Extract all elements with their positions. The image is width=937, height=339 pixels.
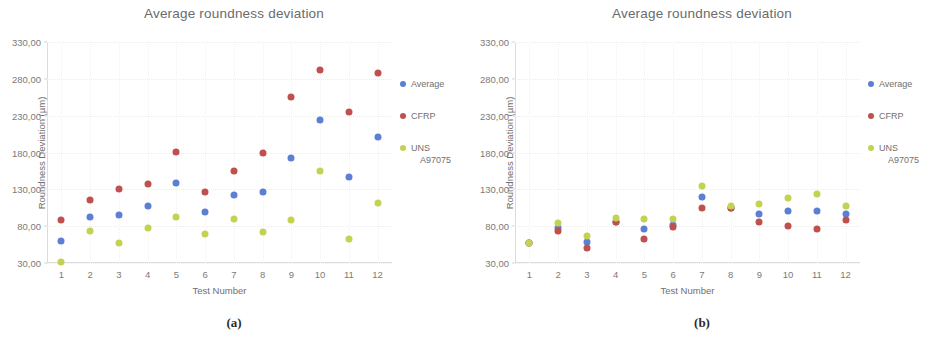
- x-gridline: [731, 42, 732, 263]
- y-gridline: [515, 116, 860, 117]
- data-point: [317, 117, 324, 124]
- x-gridline: [702, 42, 703, 263]
- y-tick-label: 130,00: [480, 184, 509, 195]
- data-point: [670, 223, 677, 230]
- data-point: [641, 215, 648, 222]
- data-point: [230, 192, 237, 199]
- y-gridline: [47, 116, 392, 117]
- y-tick-mark: [44, 263, 47, 264]
- data-point: [555, 220, 562, 227]
- legend-sublabel: A97075: [879, 154, 936, 166]
- data-point: [288, 155, 295, 162]
- data-point: [144, 202, 151, 209]
- x-gridline: [759, 42, 760, 263]
- data-point: [842, 202, 849, 209]
- x-gridline: [349, 42, 350, 263]
- y-gridline: [515, 42, 860, 43]
- data-point: [374, 199, 381, 206]
- x-gridline: [291, 42, 292, 263]
- y-tick-label: 280,00: [480, 73, 509, 84]
- data-point: [259, 188, 266, 195]
- y-tick-label: 130,00: [12, 184, 41, 195]
- panel-caption-a: (a): [0, 315, 468, 331]
- data-point: [813, 208, 820, 215]
- x-gridline: [529, 42, 530, 263]
- y-tick-mark: [512, 263, 515, 264]
- data-point: [87, 213, 94, 220]
- legend-item[interactable]: Average: [400, 78, 468, 90]
- y-tick-label: 180,00: [480, 147, 509, 158]
- x-tick-label: 12: [840, 269, 851, 280]
- x-tick-label: 8: [260, 269, 265, 280]
- data-point: [785, 195, 792, 202]
- legend-sublabel: A97075: [411, 154, 468, 166]
- data-point: [583, 245, 590, 252]
- x-tick-label: 6: [670, 269, 675, 280]
- y-tick-mark: [512, 152, 515, 153]
- x-gridline: [61, 42, 62, 263]
- x-gridline: [587, 42, 588, 263]
- y-tick-label: 80,00: [485, 221, 509, 232]
- y-tick-mark: [512, 42, 515, 43]
- x-tick-label: 10: [783, 269, 794, 280]
- data-point: [698, 204, 705, 211]
- y-gridline: [47, 42, 392, 43]
- data-point: [87, 228, 94, 235]
- y-tick-label: 330,00: [480, 37, 509, 48]
- data-point: [555, 227, 562, 234]
- legend-label: UNS: [879, 143, 898, 153]
- panel-caption-b: (b): [468, 315, 936, 331]
- data-point: [698, 182, 705, 189]
- data-point: [698, 193, 705, 200]
- legend-swatch-icon: [400, 113, 406, 119]
- x-tick-label: 5: [642, 269, 647, 280]
- x-tick-label: 3: [584, 269, 589, 280]
- legend-item[interactable]: Average: [868, 78, 936, 90]
- y-gridline: [47, 189, 392, 190]
- legend-swatch-icon: [868, 145, 874, 151]
- data-point: [813, 226, 820, 233]
- y-tick-mark: [44, 115, 47, 116]
- data-point: [583, 232, 590, 239]
- legend-item[interactable]: UNSA97075: [400, 142, 468, 166]
- x-tick-label: 6: [202, 269, 207, 280]
- x-tick-label: 9: [757, 269, 762, 280]
- data-point: [173, 214, 180, 221]
- data-point: [670, 215, 677, 222]
- y-tick-mark: [44, 189, 47, 190]
- data-point: [612, 215, 619, 222]
- data-point: [727, 203, 734, 210]
- x-tick-label: 12: [372, 269, 383, 280]
- y-tick-mark: [44, 226, 47, 227]
- legend-b: AverageCFRPUNSA97075: [868, 78, 936, 186]
- x-gridline: [234, 42, 235, 263]
- legend-item[interactable]: UNSA97075: [868, 142, 936, 166]
- y-gridline: [47, 263, 392, 264]
- legend-swatch-icon: [868, 81, 874, 87]
- data-point: [756, 218, 763, 225]
- y-gridline: [515, 263, 860, 264]
- y-tick-label: 230,00: [12, 110, 41, 121]
- x-gridline: [846, 42, 847, 263]
- x-tick-label: 5: [174, 269, 179, 280]
- x-tick-label: 11: [344, 269, 354, 280]
- y-tick-mark: [44, 78, 47, 79]
- figure-two-scatter-charts: Average roundness deviation Roundness De…: [0, 0, 937, 339]
- data-point: [87, 196, 94, 203]
- legend-item[interactable]: CFRP: [400, 110, 468, 122]
- x-tick-label: 8: [728, 269, 733, 280]
- data-point: [345, 235, 352, 242]
- y-tick-label: 80,00: [17, 221, 41, 232]
- chart-panel-a: Average roundness deviation Roundness De…: [0, 0, 468, 339]
- data-point: [259, 149, 266, 156]
- data-point: [641, 235, 648, 242]
- y-tick-mark: [44, 152, 47, 153]
- chart-title-a: Average roundness deviation: [0, 6, 468, 21]
- plot-area-b: Roundness Deviation (µm) Test Number 30,…: [515, 42, 860, 263]
- legend-label: CFRP: [879, 111, 904, 121]
- y-gridline: [47, 79, 392, 80]
- legend-swatch-icon: [868, 113, 874, 119]
- data-point: [288, 216, 295, 223]
- data-point: [756, 201, 763, 208]
- legend-item[interactable]: CFRP: [868, 110, 936, 122]
